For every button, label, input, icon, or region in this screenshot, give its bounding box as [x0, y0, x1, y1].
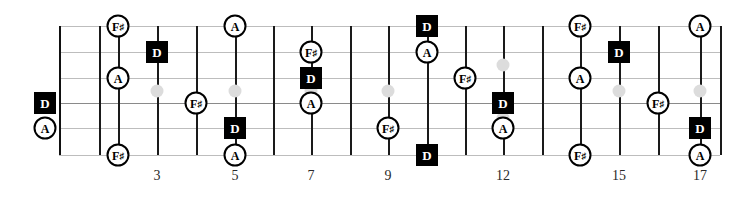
- note-marker-a-fret-5-string-6[interactable]: A: [224, 144, 247, 167]
- sharp-icon: ♯: [581, 152, 586, 161]
- note-letter: A: [231, 149, 240, 161]
- fret-line-8: [350, 26, 352, 155]
- fret-number-12: 12: [496, 168, 510, 184]
- note-letter: D: [422, 149, 431, 162]
- note-marker-a-fret-2-string-3[interactable]: A: [107, 67, 130, 90]
- note-letter: D: [152, 46, 161, 59]
- note-marker-fsharp-fret-16-string-4[interactable]: F♯: [647, 92, 670, 115]
- sharp-icon: ♯: [197, 100, 202, 109]
- inlay-dot: [694, 85, 707, 98]
- note-letter: F: [190, 97, 197, 109]
- note-marker-d-fret-7-string-3[interactable]: D: [300, 67, 322, 89]
- note-letter: F: [459, 72, 466, 84]
- note-letter: F: [574, 20, 581, 32]
- fret-line-4: [196, 26, 198, 155]
- sharp-icon: ♯: [389, 125, 394, 134]
- fret-number-7: 7: [308, 168, 315, 184]
- note-letter: D: [498, 97, 507, 110]
- fret-line-18: [720, 26, 722, 155]
- fret-line-2: [118, 26, 120, 155]
- note-letter: F: [382, 122, 389, 134]
- fretboard-diagram: DAF♯AF♯DAF♯DAF♯DAF♯DADF♯DAF♯AF♯DF♯ADA 35…: [0, 0, 736, 198]
- inlay-dot: [151, 85, 164, 98]
- note-letter: F: [112, 20, 119, 32]
- string-line-6: [59, 155, 720, 156]
- note-letter: A: [499, 122, 508, 134]
- note-marker-a-fret-0-string-5[interactable]: A: [34, 117, 57, 140]
- sharp-icon: ♯: [119, 23, 124, 32]
- note-marker-d-fret-17-string-5[interactable]: D: [689, 117, 711, 139]
- note-marker-fsharp-fret-14-string-1[interactable]: F♯: [569, 15, 592, 38]
- fret-number-15: 15: [612, 168, 626, 184]
- note-letter: D: [230, 122, 239, 135]
- note-marker-d-fret-10-string-6[interactable]: D: [416, 144, 438, 166]
- note-marker-a-fret-14-string-3[interactable]: A: [569, 67, 592, 90]
- note-marker-a-fret-17-string-6[interactable]: A: [689, 144, 712, 167]
- note-letter: F: [574, 149, 581, 161]
- note-marker-a-fret-12-string-5[interactable]: A: [492, 117, 515, 140]
- note-marker-fsharp-fret-7-string-2[interactable]: F♯: [300, 41, 323, 64]
- fret-number-3: 3: [154, 168, 161, 184]
- note-marker-fsharp-fret-9-string-5[interactable]: F♯: [377, 117, 400, 140]
- note-letter: A: [423, 46, 432, 58]
- note-letter: F: [112, 149, 119, 161]
- note-marker-fsharp-fret-11-string-3[interactable]: F♯: [454, 67, 477, 90]
- note-letter: D: [614, 46, 623, 59]
- fret-number-9: 9: [385, 168, 392, 184]
- sharp-icon: ♯: [581, 23, 586, 32]
- note-marker-fsharp-fret-14-string-6[interactable]: F♯: [569, 144, 592, 167]
- fret-line-1: [99, 26, 101, 155]
- sharp-icon: ♯: [466, 75, 471, 84]
- fret-number-5: 5: [232, 168, 239, 184]
- note-letter: F: [652, 97, 659, 109]
- inlay-dot: [229, 85, 242, 98]
- fret-line-13: [542, 26, 544, 155]
- note-marker-d-fret-0-string-4[interactable]: D: [34, 92, 56, 114]
- note-letter: A: [41, 122, 50, 134]
- note-marker-a-fret-7-string-4[interactable]: A: [300, 92, 323, 115]
- inlay-dot: [382, 85, 395, 98]
- note-letter: A: [696, 20, 705, 32]
- note-letter: A: [307, 97, 316, 109]
- note-letter: A: [576, 72, 585, 84]
- note-marker-a-fret-10-string-2[interactable]: A: [416, 41, 439, 64]
- fret-line-11: [465, 26, 467, 155]
- note-marker-d-fret-12-string-4[interactable]: D: [492, 92, 514, 114]
- note-letter: D: [422, 20, 431, 33]
- note-marker-d-fret-15-string-2[interactable]: D: [608, 41, 630, 63]
- note-marker-d-fret-5-string-5[interactable]: D: [224, 117, 246, 139]
- note-letter: A: [114, 72, 123, 84]
- note-letter: A: [231, 20, 240, 32]
- sharp-icon: ♯: [312, 49, 317, 58]
- note-letter: D: [306, 72, 315, 85]
- note-marker-fsharp-fret-4-string-4[interactable]: F♯: [185, 92, 208, 115]
- sharp-icon: ♯: [659, 100, 664, 109]
- note-letter: D: [695, 122, 704, 135]
- note-marker-d-fret-3-string-2[interactable]: D: [146, 41, 168, 63]
- note-letter: A: [696, 149, 705, 161]
- fret-line-14: [580, 26, 582, 155]
- note-letter: F: [305, 46, 312, 58]
- fret-line-16: [658, 26, 660, 155]
- fret-line-6: [273, 26, 275, 155]
- note-marker-fsharp-fret-2-string-1[interactable]: F♯: [107, 15, 130, 38]
- note-marker-a-fret-5-string-1[interactable]: A: [224, 15, 247, 38]
- inlay-dot: [613, 85, 626, 98]
- note-marker-fsharp-fret-2-string-6[interactable]: F♯: [107, 144, 130, 167]
- note-letter: D: [40, 97, 49, 110]
- inlay-dot: [497, 59, 510, 72]
- sharp-icon: ♯: [119, 152, 124, 161]
- fret-number-17: 17: [693, 168, 707, 184]
- nut-line: [59, 26, 61, 155]
- note-marker-d-fret-10-string-1[interactable]: D: [416, 15, 438, 37]
- note-marker-a-fret-17-string-1[interactable]: A: [689, 15, 712, 38]
